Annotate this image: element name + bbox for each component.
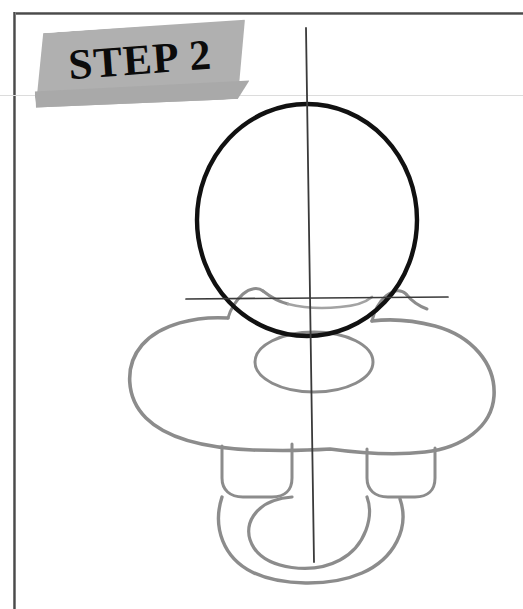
pacifier-guard-inner-ellipse <box>255 332 373 392</box>
vertical-center-guideline <box>306 28 314 562</box>
guard-notch-right-inner <box>406 294 427 309</box>
pacifier-drawing <box>0 0 523 609</box>
tutorial-page: STEP 2 <box>0 0 523 609</box>
pacifier-handle-ring-outer <box>219 497 403 583</box>
pacifier-handle-ring-inner <box>249 497 370 568</box>
